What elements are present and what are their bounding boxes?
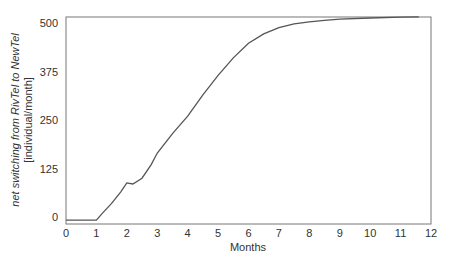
x-tick-label: 9	[337, 227, 343, 239]
x-tick-label: 0	[63, 227, 69, 239]
x-tick-label: 1	[93, 227, 99, 239]
x-tick-label: 3	[154, 227, 160, 239]
x-tick-label: 5	[215, 227, 221, 239]
x-tick-label: 4	[185, 227, 191, 239]
x-tick-label: 8	[306, 227, 312, 239]
line-chart: 0123456789101112 0125250375500 Months ne…	[0, 0, 450, 268]
x-tick-label: 6	[245, 227, 251, 239]
y-axis-label: net switching from RivTel to NewTel [ind…	[9, 33, 34, 207]
plot-frame	[66, 17, 431, 224]
y-tick-label: 250	[40, 114, 58, 126]
y-tick-label: 0	[52, 211, 58, 223]
y-tick-label: 125	[40, 163, 58, 175]
x-tick-label: 11	[395, 227, 406, 239]
y-tick-label: 500	[40, 17, 58, 29]
x-axis-label: Months	[230, 241, 267, 253]
x-tick-label: 2	[124, 227, 130, 239]
x-axis-ticks: 0123456789101112	[63, 227, 437, 239]
data-line	[66, 17, 419, 220]
x-tick-label: 7	[276, 227, 282, 239]
y-axis-label-line2: [individual/month]	[22, 77, 34, 163]
x-tick-label: 12	[425, 227, 437, 239]
y-tick-label: 375	[40, 66, 58, 78]
y-axis-label-line1: net switching from RivTel to NewTel	[9, 33, 21, 207]
x-tick-label: 10	[364, 227, 376, 239]
y-axis-ticks: 0125250375500	[40, 17, 58, 223]
